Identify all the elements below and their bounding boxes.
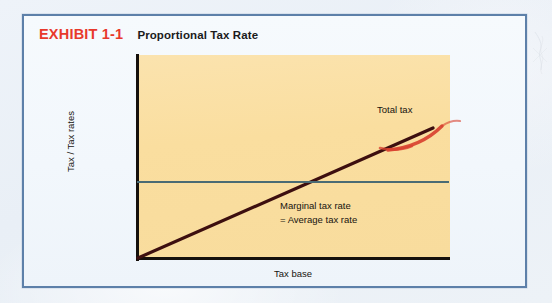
y-axis-label: Tax / Tax rates: [65, 82, 76, 202]
y-axis-line: [136, 54, 139, 261]
marginal-tax-rate-label: Marginal tax rate: [280, 199, 357, 213]
rate-label-block: Marginal tax rate = Average tax rate: [280, 199, 357, 227]
plot-background: [138, 55, 450, 259]
average-tax-rate-label: = Average tax rate: [280, 213, 357, 227]
scan-smudge-artifact: [529, 18, 552, 90]
exhibit-screenshot: EXHIBIT 1-1 Proportional Tax Rate Total …: [0, 0, 552, 303]
exhibit-frame: EXHIBIT 1-1 Proportional Tax Rate Total …: [22, 14, 527, 288]
x-axis-line: [136, 257, 450, 260]
x-axis-label: Tax base: [136, 268, 450, 279]
chart-area: Total tax Marginal tax rate = Average ta…: [24, 16, 529, 290]
total-tax-label: Total tax: [377, 104, 412, 115]
